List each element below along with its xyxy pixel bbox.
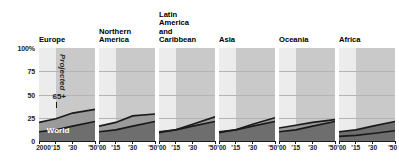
x-tick-label: '30 — [128, 145, 137, 152]
panel-europe: EuropeProjected65+World2000'15'30'50 — [39, 0, 99, 166]
plot-area-latin-america-and-caribbean — [159, 48, 215, 141]
x-tick-label: '15 — [171, 145, 180, 152]
series-bands-latin-america-and-caribbean — [159, 48, 215, 141]
x-tick-label: '50 — [208, 145, 217, 152]
panel-northern-america: Northern America'00'15'30'50 — [99, 0, 159, 166]
annotation-world: World — [47, 127, 70, 135]
x-axis-line — [219, 141, 275, 142]
x-tick-label: '50 — [88, 145, 97, 152]
panel-title-europe: Europe — [39, 36, 99, 45]
x-axis-line — [159, 141, 215, 142]
plot-area-europe: Projected65+World — [39, 48, 95, 141]
x-tick-label: '50 — [148, 145, 157, 152]
annotation-projected: Projected — [58, 54, 66, 90]
x-tick-label: '15 — [231, 145, 240, 152]
panel-row: EuropeProjected65+World2000'15'30'50Nort… — [39, 0, 399, 166]
series-bands-asia — [219, 48, 275, 141]
x-axis-line — [279, 141, 335, 142]
series-bands-northern-america — [99, 48, 155, 141]
x-tick-label: '15 — [51, 145, 60, 152]
plot-area-northern-america — [99, 48, 155, 141]
panel-asia: Asia'00'15'30'50 — [219, 0, 279, 166]
y-tick-label: 75 — [27, 68, 35, 75]
plot-area-africa — [339, 48, 395, 141]
x-tick-label: '30 — [308, 145, 317, 152]
panel-title-oceania: Oceania — [279, 36, 339, 45]
x-tick-label: '15 — [351, 145, 360, 152]
panel-title-asia: Asia — [219, 36, 279, 45]
x-tick-label: '30 — [248, 145, 257, 152]
series-bands-africa — [339, 48, 395, 141]
x-tick-label: '00 — [217, 145, 226, 152]
x-tick-label: 2000 — [36, 145, 51, 152]
x-axis-line — [339, 141, 395, 142]
x-tick-label: '50 — [268, 145, 277, 152]
plot-area-oceania — [279, 48, 335, 141]
x-tick-label: '50 — [388, 145, 397, 152]
x-tick-label: '30 — [188, 145, 197, 152]
x-tick-label: '30 — [68, 145, 77, 152]
y-tick-label: 0 — [31, 138, 35, 145]
x-tick-label: '00 — [97, 145, 106, 152]
x-axis-line — [39, 141, 95, 142]
panel-oceania: Oceania'00'15'30'50 — [279, 0, 339, 166]
x-tick-label: '50 — [328, 145, 337, 152]
x-tick-label: '30 — [368, 145, 377, 152]
annotation-65plus: 65+ — [52, 93, 66, 101]
plot-area-asia — [219, 48, 275, 141]
y-tick-label: 100% — [17, 45, 35, 52]
x-tick-label: '00 — [277, 145, 286, 152]
panel-latin-america-and-caribbean: Latin America and Caribbean'00'15'30'50 — [159, 0, 219, 166]
y-axis: 100%7550250 — [0, 0, 38, 166]
x-tick-label: '15 — [111, 145, 120, 152]
y-tick-label: 50 — [27, 91, 35, 98]
panel-title-latin-america-and-caribbean: Latin America and Caribbean — [159, 11, 219, 45]
panel-title-northern-america: Northern America — [99, 28, 159, 45]
x-tick-label: '15 — [291, 145, 300, 152]
population-aging-small-multiples-chart: 100%7550250 EuropeProjected65+World2000'… — [0, 0, 399, 166]
x-axis-line — [99, 141, 155, 142]
x-tick-label: '00 — [157, 145, 166, 152]
y-tick-label: 25 — [27, 114, 35, 121]
series-bands-oceania — [279, 48, 335, 141]
annotation-65plus-leader — [56, 102, 57, 109]
panel-title-africa: Africa — [339, 36, 399, 45]
x-tick-label: '00 — [337, 145, 346, 152]
panel-africa: Africa'00'15'30'50 — [339, 0, 399, 166]
